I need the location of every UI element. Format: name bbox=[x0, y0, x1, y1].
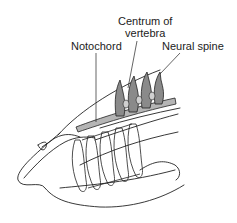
vertebra bbox=[128, 76, 138, 112]
vertebra bbox=[115, 80, 125, 116]
notochord-label: Notochord bbox=[71, 40, 122, 52]
centrum-label: Centrum of vertebra bbox=[118, 15, 172, 39]
neural-spine-leader bbox=[160, 53, 180, 74]
neural-spine-label: Neural spine bbox=[162, 40, 224, 52]
vertebra bbox=[154, 72, 163, 104]
centrum-label-line2: vertebra bbox=[118, 27, 172, 39]
centrum-label-line1: Centrum of bbox=[118, 15, 172, 27]
anatomy-diagram: Centrum of vertebra Notochord Neural spi… bbox=[0, 0, 237, 223]
gill-arches bbox=[72, 124, 142, 192]
head-outline bbox=[18, 133, 184, 207]
